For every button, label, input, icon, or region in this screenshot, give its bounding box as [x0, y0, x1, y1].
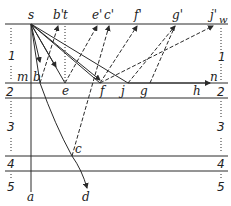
layer-label-left-3: 3 [7, 120, 15, 134]
label-n: n [210, 70, 218, 84]
layer-label-right-2: 2 [217, 85, 225, 99]
layer-label-left-4: 4 [7, 157, 15, 171]
layer-label-right-1: 1 [218, 50, 226, 64]
label-j-prime: j' [207, 8, 217, 22]
ray-path-diagram: s b' t e' c' f' g' j' w m b e f j g h n … [0, 0, 231, 206]
label-c-prime: c' [104, 8, 114, 22]
label-e-prime: e' [92, 8, 102, 22]
label-b: b [33, 70, 41, 84]
layer-label-left-5: 5 [7, 180, 15, 194]
layer-label-right-5: 5 [217, 180, 225, 194]
layer-label-right-3: 3 [217, 120, 225, 134]
layer-label-right-4: 4 [217, 157, 225, 171]
label-d: d [82, 190, 90, 204]
label-a: a [27, 190, 34, 204]
label-e: e [62, 84, 69, 98]
label-w: w [219, 14, 228, 25]
label-g: g [140, 84, 148, 98]
layer-label-left-2: 2 [6, 85, 14, 99]
label-s: s [28, 8, 34, 22]
label-j: j [118, 84, 125, 98]
solid-rays [31, 24, 210, 188]
label-h: h [193, 84, 201, 98]
layer-label-left-1: 1 [8, 49, 16, 63]
label-f-prime: f' [133, 8, 142, 22]
label-c: c [75, 142, 82, 156]
label-g-prime: g' [172, 8, 183, 22]
label-m: m [17, 70, 28, 84]
label-t: t [63, 8, 68, 22]
label-f: f [99, 84, 107, 98]
